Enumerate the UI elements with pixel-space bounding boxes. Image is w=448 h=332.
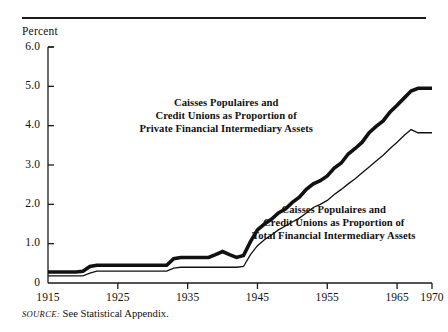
axes-group [48,47,432,289]
total-assets-label-line-0: Caisses Populaires and [252,203,416,216]
total-assets-label-line-1: Credit Unions as Proportion of [252,216,416,229]
x-tick-label-0: 1915 [28,291,68,303]
x-tick-label-4: 1955 [307,291,347,303]
private-assets-label-line-0: Caisses Populaires and [140,96,313,109]
y-tick-label-4: 4.0 [10,118,40,130]
private-assets-label: Caisses Populaires andCredit Unions as P… [140,96,313,136]
private-assets-label-line-2: Private Financial Intermediary Assets [140,122,313,135]
y-tick-label-3: 3.0 [10,158,40,170]
y-tick-label-0: 0 [10,276,40,288]
x-tick-label-3: 1945 [237,291,277,303]
chart-figure: Percent 01.02.03.04.05.06.0 191519251935… [0,0,448,332]
y-tick-label-5: 5.0 [10,79,40,91]
total-assets-label: Caisses Populaires andCredit Unions as P… [252,203,416,243]
y-tick-label-2: 2.0 [10,197,40,209]
x-tick-label-1: 1925 [98,291,138,303]
source-text: See Statistical Appendix. [63,308,169,319]
plot-area [0,0,448,332]
private-assets-label-line-1: Credit Unions as Proportion of [140,109,313,122]
source-note: SOURCE: See Statistical Appendix. [22,308,169,319]
y-tick-label-1: 1.0 [10,236,40,248]
x-tick-label-6: 1970 [412,291,448,303]
plot-svg [0,0,448,332]
y-tick-label-6: 6.0 [10,40,40,52]
x-tick-label-2: 1935 [168,291,208,303]
source-label: SOURCE: [22,309,60,319]
total-assets-label-line-2: Total Financial Intermediary Assets [252,229,416,242]
